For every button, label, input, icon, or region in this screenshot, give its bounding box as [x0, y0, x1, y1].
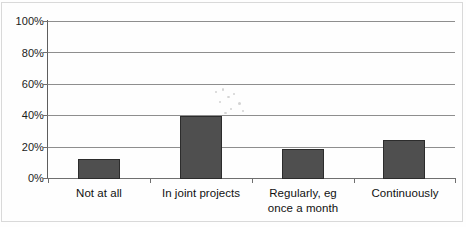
bar-series: [48, 21, 455, 179]
x-tick-2: [252, 178, 253, 183]
x-axis-label-continuously-line1: Continuously: [354, 186, 456, 201]
y-axis-label-0: 0%: [2, 173, 44, 184]
x-axis-label-not-at-all-line1: Not at all: [48, 186, 150, 201]
x-axis-label-not-at-all: Not at all: [48, 186, 150, 201]
bar-not-at-all[interactable]: [78, 159, 120, 179]
y-axis-label-80: 80%: [2, 48, 44, 59]
x-tick-0: [48, 178, 49, 183]
y-axis-label-60: 60%: [2, 79, 44, 90]
bar-continuously[interactable]: [383, 140, 425, 179]
bar-in-joint-projects[interactable]: [180, 116, 222, 179]
x-axis-label-regularly-line1: Regularly, eg: [252, 186, 354, 201]
x-tick-1: [150, 178, 151, 183]
x-tick-3: [354, 178, 355, 183]
x-axis-label-in-joint-projects-line1: In joint projects: [150, 186, 252, 201]
y-axis-labels: 100% 80% 60% 40% 20% 0%: [0, 0, 44, 227]
x-axis-label-regularly: Regularly, eg once a month: [252, 186, 354, 215]
x-axis-label-in-joint-projects: In joint projects: [150, 186, 252, 201]
bar-chart: 100% 80% 60% 40% 20% 0%: [0, 0, 466, 227]
y-axis-label-100: 100%: [2, 16, 44, 27]
y-axis-label-20: 20%: [2, 142, 44, 153]
bar-regularly[interactable]: [282, 149, 324, 179]
x-axis-label-regularly-line2: once a month: [252, 201, 354, 216]
y-axis-label-40: 40%: [2, 110, 44, 121]
x-tick-4: [455, 178, 456, 183]
x-axis-label-continuously: Continuously: [354, 186, 456, 201]
x-axis-labels: Not at all In joint projects Regularly, …: [48, 186, 455, 226]
